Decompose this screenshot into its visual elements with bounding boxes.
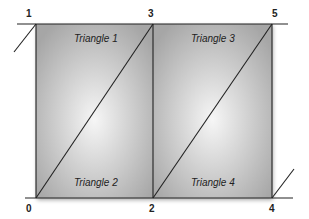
vertex-label-1: 1 [26,8,32,19]
tail-bottom-right [272,169,294,198]
triangle-label-2: Triangle 2 [74,177,118,188]
triangle-label-3: Triangle 3 [191,33,235,44]
triangle-label-1: Triangle 1 [74,33,118,44]
triangle-strip-diagram: 1 3 5 0 2 4 Triangle 1 Triangle 2 Triang… [0,0,309,219]
vertex-label-5: 5 [272,8,278,19]
vertex-label-3: 3 [148,8,154,19]
vertex-label-0: 0 [26,203,32,214]
vertex-label-2: 2 [149,203,155,214]
vertex-label-4: 4 [269,203,275,214]
triangle-label-4: Triangle 4 [191,177,235,188]
tail-top-left [14,24,36,52]
